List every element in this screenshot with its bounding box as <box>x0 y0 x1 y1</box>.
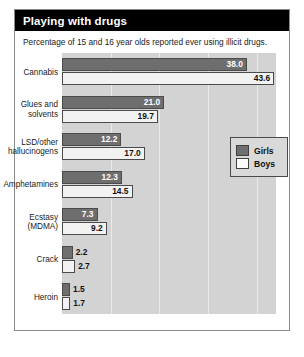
category-label: Glues andsolvents <box>0 100 58 118</box>
bar-value-label: 1.5 <box>73 283 85 296</box>
bar-row: 1.5 <box>62 283 276 296</box>
category-label: Heroin <box>0 293 58 302</box>
bar-value-label: 2.7 <box>78 260 90 273</box>
bar-value-label: 12.2 <box>101 133 117 146</box>
bar-value-label: 43.6 <box>254 72 270 85</box>
legend-swatch-boys <box>236 158 249 169</box>
bar-girls <box>62 283 70 296</box>
bar-row: 21.0 <box>62 96 276 109</box>
legend-item-boys: Boys <box>236 158 282 169</box>
bar-value-label: 17.0 <box>124 147 140 160</box>
bar-group: Ecstasy(MDMA)7.39.2 <box>62 208 276 236</box>
bar-value-label: 21.0 <box>144 96 160 109</box>
bar-value-label: 2.2 <box>76 246 88 259</box>
bar-boys <box>62 297 70 310</box>
bar-row: 14.5 <box>62 185 276 198</box>
category-label: Amphetamines <box>0 180 58 189</box>
bar-row: 38.0 <box>62 58 276 71</box>
chart-subtitle: Percentage of 15 and 16 year olds report… <box>15 31 289 53</box>
bar-group: Heroin1.51.7 <box>62 283 276 311</box>
bar-row: 43.6 <box>62 72 276 85</box>
chart-legend: Girls Boys <box>230 137 288 177</box>
legend-label-girls: Girls <box>254 146 274 156</box>
bar-girls <box>62 246 73 259</box>
legend-label-boys: Boys <box>254 159 275 169</box>
legend-swatch-girls <box>236 145 249 156</box>
bar-group: Cannabis38.043.6 <box>62 58 276 86</box>
chart-plot: Cannabis38.043.6Glues andsolvents21.019.… <box>15 53 289 322</box>
bar-row: 2.7 <box>62 260 276 273</box>
bar-group: Crack2.22.7 <box>62 246 276 274</box>
legend-item-girls: Girls <box>236 145 282 156</box>
bar-row: 7.3 <box>62 208 276 221</box>
bar-row: 1.7 <box>62 297 276 310</box>
bar-row: 9.2 <box>62 222 276 235</box>
bar-value-label: 7.3 <box>82 208 94 221</box>
bar-boys <box>62 260 75 273</box>
bar-value-label: 19.7 <box>138 110 154 123</box>
bar-group: Glues andsolvents21.019.7 <box>62 96 276 124</box>
chart-card: Playing with drugs Percentage of 15 and … <box>14 9 290 331</box>
bar-girls <box>62 58 247 71</box>
bar-row: 19.7 <box>62 110 276 123</box>
bar-row: 2.2 <box>62 246 276 259</box>
bar-value-label: 38.0 <box>227 58 243 71</box>
bar-value-label: 1.7 <box>73 297 85 310</box>
category-label: LSD/otherhallucinogens <box>0 138 58 156</box>
plot-area: Cannabis38.043.6Glues andsolvents21.019.… <box>62 53 276 314</box>
category-label: Cannabis <box>0 68 58 77</box>
chart-title: Playing with drugs <box>23 15 127 27</box>
bar-value-label: 14.5 <box>112 185 128 198</box>
bar-boys <box>62 72 274 85</box>
bar-value-label: 9.2 <box>91 222 103 235</box>
chart-title-bar: Playing with drugs <box>15 10 289 31</box>
category-label: Ecstasy(MDMA) <box>0 213 58 231</box>
category-label: Crack <box>0 255 58 264</box>
bar-value-label: 12.3 <box>102 171 118 184</box>
